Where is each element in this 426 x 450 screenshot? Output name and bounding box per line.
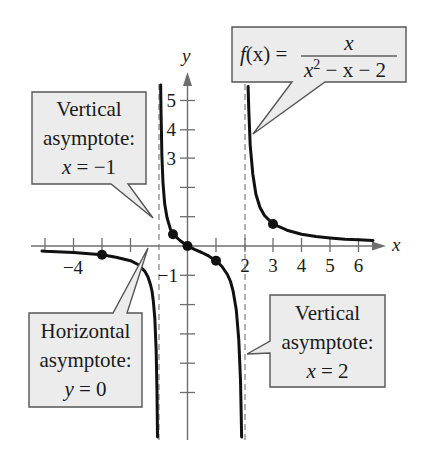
vertical-asymptote-left-callout: Vertical asymptote: x = −1: [32, 92, 153, 218]
point-origin: [183, 241, 193, 251]
point-minus-half: [168, 229, 178, 239]
function-numerator: x: [343, 31, 354, 55]
y-tick-label-4: 4: [167, 119, 177, 140]
x-tick-label-4: 4: [297, 255, 307, 276]
horizontal-line2: asymptote:: [39, 348, 131, 372]
vertical-right-line2: asymptote:: [281, 330, 373, 354]
function-lhs: f(x) =: [240, 42, 287, 66]
vertical-right-line1: Vertical: [295, 301, 360, 325]
rational-function-graph: −4 2 3 4 5 6 5 4 3 −1 x y f(x) = x x2 − …: [0, 0, 426, 450]
y-tick-label-3: 3: [167, 148, 177, 169]
x-tick-label-3: 3: [268, 255, 278, 276]
curve-right-branch: [248, 87, 373, 241]
vertical-left-line2: asymptote:: [43, 126, 135, 150]
x-tick-label-6: 6: [354, 255, 364, 276]
x-axis-arrow-icon: [372, 242, 386, 251]
point-3: [268, 219, 278, 229]
x-tick-label-minus-4: −4: [63, 257, 84, 278]
vertical-left-line3: x = −1: [61, 155, 116, 179]
point-minus-3: [97, 250, 107, 260]
x-axis-label: x: [391, 234, 401, 255]
horizontal-line3: y = 0: [62, 377, 106, 401]
horizontal-asymptote-callout: Horizontal asymptote: y = 0: [29, 248, 148, 407]
vertical-right-line3: x = 2: [305, 359, 348, 383]
function-callout: f(x) = x x2 − x − 2: [232, 27, 406, 134]
x-ticks: [45, 238, 359, 252]
y-tick-label-5: 5: [167, 90, 177, 111]
vertical-asymptote-right-callout: Vertical asymptote: x = 2: [247, 295, 385, 387]
point-1: [211, 256, 221, 266]
vertical-left-line1: Vertical: [56, 97, 121, 121]
y-tick-label-minus-1: −1: [158, 265, 178, 286]
y-axis-label: y: [180, 45, 191, 66]
x-tick-label-2: 2: [240, 255, 250, 276]
x-tick-label-5: 5: [325, 255, 335, 276]
horizontal-line1: Horizontal: [41, 319, 131, 343]
y-axis-arrow-icon: [183, 72, 192, 86]
